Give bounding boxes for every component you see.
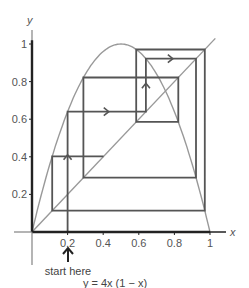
tick-labels: 0.20.40.60.810.20.40.60.81 <box>12 38 213 249</box>
y-tick-label: 1 <box>21 38 27 50</box>
x-tick-label: 1 <box>207 237 213 249</box>
x-axis-label: x <box>229 226 236 238</box>
curves <box>32 38 215 232</box>
y-tick-label: 0.6 <box>12 113 27 125</box>
start-here-annotation: start here <box>45 248 91 277</box>
y-axis-label: y <box>26 14 34 26</box>
chart-caption: y = 4x (1 − x) <box>83 277 147 288</box>
y-tick-label: 0.8 <box>12 76 27 88</box>
start-here-label: start here <box>45 265 91 277</box>
y-tick-label: 0.4 <box>12 151 27 163</box>
cobweb-chart: 0.20.40.60.810.20.40.60.81 x y start her… <box>0 0 249 288</box>
cobweb-path <box>52 50 205 233</box>
x-tick-label: 0.6 <box>131 237 146 249</box>
y-tick-label: 0.2 <box>12 188 27 200</box>
direction-arrows <box>64 55 173 160</box>
x-tick-label: 0.4 <box>96 237 111 249</box>
x-tick-label: 0.8 <box>167 237 182 249</box>
cobweb-line <box>52 50 205 233</box>
axes <box>14 30 226 265</box>
up-arrow-icon <box>63 248 73 262</box>
